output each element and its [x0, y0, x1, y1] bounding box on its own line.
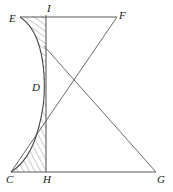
label-H: H: [43, 174, 51, 185]
label-E: E: [9, 13, 16, 24]
label-I: I: [47, 3, 51, 14]
segment-P-G: [44, 46, 156, 172]
segment-C-F: [11, 17, 117, 172]
geometry-figure: E I F D C H G: [0, 0, 173, 192]
figure-canvas: [0, 0, 173, 192]
label-G: G: [157, 174, 165, 185]
label-F: F: [119, 10, 126, 21]
label-C: C: [6, 174, 13, 185]
hatch-lower-region: [0, 0, 173, 192]
label-D: D: [32, 82, 40, 93]
